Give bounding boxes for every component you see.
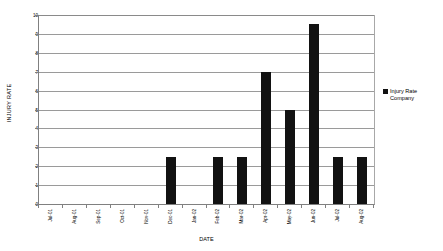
bar-slot: [326, 15, 350, 204]
bar: [213, 157, 223, 204]
bar: [333, 157, 343, 204]
x-tick-mark: [373, 205, 374, 208]
bar: [237, 157, 247, 204]
bar-slot: [111, 15, 135, 204]
x-tick-mark: [38, 205, 39, 208]
bar: [285, 110, 295, 205]
x-tick-mark: [301, 205, 302, 208]
bar-slot: [207, 15, 231, 204]
x-tick-mark: [253, 205, 254, 208]
x-tick-label-text: May-02: [287, 209, 292, 224]
legend-swatch-injury-rate: [383, 89, 388, 94]
bar-slot: [350, 15, 374, 204]
x-tick-label: Nov-01: [134, 209, 158, 235]
x-axis-title: DATE: [38, 236, 375, 242]
bar-slot: [278, 15, 302, 204]
bar: [357, 157, 367, 204]
y-axis-ticks: 012345678910: [0, 15, 38, 205]
x-tick-label-text: Oct-01: [119, 209, 124, 223]
x-tick-label-text: Mar-02: [239, 209, 244, 224]
x-tick-mark: [277, 205, 278, 208]
x-tick-mark: [158, 205, 159, 208]
x-tick-label: Aug-02: [349, 209, 373, 235]
legend-label: Injury Rate Company: [390, 88, 441, 102]
x-tick-label-text: Sep-01: [95, 209, 100, 224]
bar-chart: INJURY RATE 012345678910 Jul-01Aug-01Sep…: [0, 0, 443, 251]
x-tick-label-text: Feb-02: [215, 209, 220, 224]
x-tick-label-text: Apr-02: [263, 209, 268, 223]
y-tick-label: 5: [8, 107, 38, 112]
x-tick-mark: [182, 205, 183, 208]
y-tick-label: 7: [8, 69, 38, 74]
x-tick-label-text: Aug-01: [71, 209, 76, 224]
bar: [166, 157, 176, 204]
bar: [309, 24, 319, 204]
x-tick-label: Jul-01: [38, 209, 62, 235]
x-tick-label-text: Jul-01: [47, 209, 52, 222]
x-tick-label: Sep-01: [86, 209, 110, 235]
y-tick-label: 0: [8, 202, 38, 207]
x-tick-mark: [134, 205, 135, 208]
x-tick-label-text: Dec-01: [167, 209, 172, 224]
y-tick-label: 1: [8, 183, 38, 188]
bar-slot: [87, 15, 111, 204]
bar-slot: [183, 15, 207, 204]
y-tick-label: 8: [8, 50, 38, 55]
bar-slot: [254, 15, 278, 204]
x-tick-label: Apr-02: [253, 209, 277, 235]
bar-slot: [39, 15, 63, 204]
x-tick-mark: [349, 205, 350, 208]
bars-layer: [39, 15, 374, 204]
bar-slot: [159, 15, 183, 204]
y-tick-label: 10: [8, 13, 38, 18]
y-tick-label: 9: [8, 31, 38, 36]
x-tick-label: Jan-02: [182, 209, 206, 235]
x-tick-label: Feb-02: [206, 209, 230, 235]
x-tick-label: Jul-02: [325, 209, 349, 235]
x-tick-mark: [86, 205, 87, 208]
x-tick-mark: [206, 205, 207, 208]
bar-slot: [302, 15, 326, 204]
y-tick-label: 3: [8, 145, 38, 150]
x-tick-mark: [62, 205, 63, 208]
plot-area: [38, 15, 375, 205]
x-tick-label: May-02: [277, 209, 301, 235]
bar-slot: [230, 15, 254, 204]
x-tick-label-text: Jun-02: [311, 209, 316, 223]
x-tick-label: Jun-02: [301, 209, 325, 235]
y-tick-label: 2: [8, 164, 38, 169]
x-tick-label-text: Aug-02: [359, 209, 364, 224]
x-tick-label: Aug-01: [62, 209, 86, 235]
chart-legend: Injury Rate Company: [383, 88, 441, 102]
bar-slot: [135, 15, 159, 204]
x-tick-mark: [110, 205, 111, 208]
bar: [261, 72, 271, 204]
x-tick-label-text: Nov-01: [143, 209, 148, 224]
x-tick-label-text: Jan-02: [191, 209, 196, 223]
x-tick-label: Dec-01: [158, 209, 182, 235]
x-tick-label-text: Jul-02: [335, 209, 340, 222]
x-axis-labels: Jul-01Aug-01Sep-01Oct-01Nov-01Dec-01Jan-…: [38, 209, 375, 235]
x-tick-label: Oct-01: [110, 209, 134, 235]
x-tick-label: Mar-02: [229, 209, 253, 235]
y-tick-label: 4: [8, 126, 38, 131]
x-tick-mark: [229, 205, 230, 208]
y-tick-label: 6: [8, 88, 38, 93]
bar-slot: [63, 15, 87, 204]
x-tick-mark: [325, 205, 326, 208]
